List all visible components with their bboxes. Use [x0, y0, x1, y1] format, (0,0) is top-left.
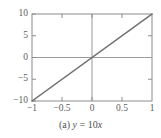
- caption-coefficient: 10: [88, 119, 98, 130]
- figure-panel: 10 5 0 −5 −10 −1 −0.5 0 0.5 1 (a) y = 10…: [0, 0, 161, 138]
- caption-equals: =: [79, 119, 85, 130]
- plot-area: [0, 0, 161, 138]
- x-tick-label-0: 0: [90, 104, 95, 114]
- caption-dependent-variable: y: [73, 119, 77, 130]
- y-tick-label-0: 0: [4, 53, 28, 63]
- y-tick-label-5: 5: [4, 31, 28, 41]
- caption-independent-variable: x: [98, 119, 102, 130]
- x-tick-label-neg1: −1: [27, 104, 37, 114]
- y-tick-label-neg5: −5: [4, 75, 28, 85]
- figure-caption: (a) y = 10x: [0, 120, 161, 130]
- x-tick-label-neg0p5: −0.5: [53, 104, 70, 114]
- x-tick-label-1: 1: [150, 104, 155, 114]
- caption-index: (a): [59, 119, 70, 130]
- y-tick-label-neg10: −10: [4, 96, 28, 106]
- x-tick-label-0p5: 0.5: [116, 104, 128, 114]
- y-tick-label-10: 10: [4, 9, 28, 19]
